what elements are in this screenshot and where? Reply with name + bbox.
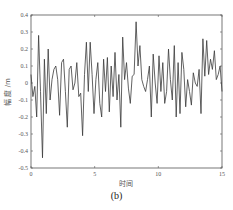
y-tick-label: -0.1 (19, 97, 29, 103)
axis-ticks (31, 15, 222, 168)
plot-frame (31, 15, 222, 168)
y-tick-label: 0 (25, 80, 28, 86)
y-tick-label: 0.1 (21, 63, 29, 69)
y-tick-label: 0.3 (21, 29, 29, 35)
x-tick-label: 15 (219, 171, 225, 177)
y-tick-label: 0.4 (21, 12, 29, 18)
series-line (31, 22, 222, 158)
x-axis-label: 时间 (119, 179, 133, 188)
y-tick-label: 0.2 (21, 46, 29, 52)
x-tick-label: 5 (93, 171, 96, 177)
figure-caption: (b) (0, 190, 233, 201)
y-tick-label: -0.2 (19, 114, 29, 120)
y-tick-label: -0.5 (19, 165, 29, 171)
x-tick-label: 10 (155, 171, 161, 177)
y-tick-label: -0.3 (19, 131, 29, 137)
line-chart: 0.40.30.20.10-0.1-0.2-0.3-0.4-0.5051015 … (0, 0, 233, 210)
axes-box (31, 15, 222, 168)
y-axis-label: 幅 度 /m (3, 78, 12, 106)
y-tick-label: -0.4 (19, 148, 29, 154)
x-tick-label: 0 (30, 171, 33, 177)
